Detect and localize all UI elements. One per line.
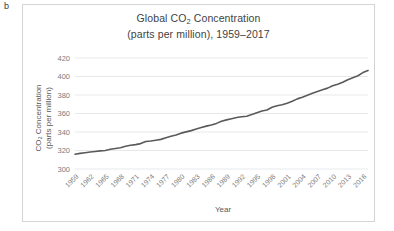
y-axis-tick-label: 420: [57, 54, 70, 63]
y-axis-tick-label: 320: [57, 146, 70, 155]
panel-label: b: [4, 2, 9, 11]
x-axis-tick-label: 2016: [352, 173, 368, 189]
y-axis-tick-label: 300: [57, 165, 70, 174]
x-axis-tick-label: 2013: [337, 173, 353, 189]
x-axis-title: Year: [215, 205, 232, 214]
x-axis-tick-label: 1980: [170, 173, 186, 189]
co2-concentration-line: [75, 70, 368, 154]
x-axis-tick-label: 1968: [109, 173, 125, 189]
y-axis-tick-labels: 300320340360380400420: [57, 54, 70, 174]
x-axis-tick-label: 1992: [230, 173, 246, 189]
x-axis-tick-label: 2007: [306, 173, 322, 189]
y-axis-title: CO₂ Concentration (parts per million): [34, 84, 53, 151]
y-axis-title-line-2: (parts per million): [44, 87, 53, 149]
x-axis-tick-label: 2004: [291, 173, 307, 189]
x-axis-tick-label: 2010: [321, 173, 337, 189]
gridlines-group: [75, 58, 368, 169]
x-axis-tick-labels: 1959196219651968197119741977198019831986…: [64, 173, 368, 189]
y-axis-tick-label: 340: [57, 128, 70, 137]
x-axis-tick-label: 1962: [79, 173, 95, 189]
chart-plot-area: 300320340360380400420 195919621965196819…: [23, 5, 376, 223]
y-axis-tick-label: 400: [57, 72, 70, 81]
x-axis-tick-label: 1977: [155, 173, 171, 189]
x-axis-tick-label: 1983: [185, 173, 201, 189]
x-axis-tick-label: 1995: [246, 173, 262, 189]
x-axis-tick-label: 1959: [64, 173, 80, 189]
x-axis-tick-label: 1986: [200, 173, 216, 189]
y-axis-title-line-1: CO₂ Concentration: [34, 84, 43, 151]
x-axis-tick-label: 1998: [261, 173, 277, 189]
chart-container: Global CO2 Concentration (parts per mill…: [22, 4, 375, 222]
y-axis-tick-label: 360: [57, 109, 70, 118]
figure-panel: b Global CO2 Concentration (parts per mi…: [0, 0, 394, 231]
x-axis-tick-label: 1989: [215, 173, 231, 189]
x-axis-tick-label: 1971: [124, 173, 140, 189]
y-axis-tick-label: 380: [57, 91, 70, 100]
x-axis-tick-label: 1965: [94, 173, 110, 189]
x-axis-tick-label: 2001: [276, 173, 292, 189]
x-axis-tick-label: 1974: [140, 173, 156, 189]
